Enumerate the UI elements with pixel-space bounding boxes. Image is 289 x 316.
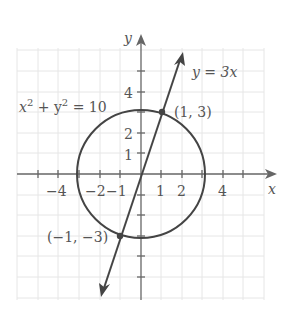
x-tick-label: 4 bbox=[218, 183, 227, 199]
point-label-1-3: (1, 3) bbox=[174, 104, 212, 120]
x-axis bbox=[17, 170, 272, 178]
x-tick-label: −4 bbox=[46, 183, 67, 199]
x-tick-label: −1 bbox=[106, 183, 127, 199]
x-tick-label: 1 bbox=[156, 183, 165, 199]
intersection-point bbox=[117, 233, 123, 239]
x-axis-label: x bbox=[268, 181, 276, 197]
graph: y x −4 −2 −1 1 2 4 1 2 4 (1, 3) (−1, −3)… bbox=[0, 0, 289, 316]
line-equation-label: y = 3x bbox=[191, 64, 237, 80]
y-tick-label: 1 bbox=[124, 147, 133, 163]
y-axis-label: y bbox=[123, 30, 133, 46]
x-tick-label: 2 bbox=[177, 183, 186, 199]
y-tick-label: 4 bbox=[124, 85, 133, 101]
x-tick-label: −2 bbox=[85, 183, 106, 199]
point-label-neg1-neg3: (−1, −3) bbox=[47, 229, 108, 245]
intersection-point bbox=[159, 109, 165, 115]
y-tick-label: 2 bbox=[124, 126, 133, 142]
